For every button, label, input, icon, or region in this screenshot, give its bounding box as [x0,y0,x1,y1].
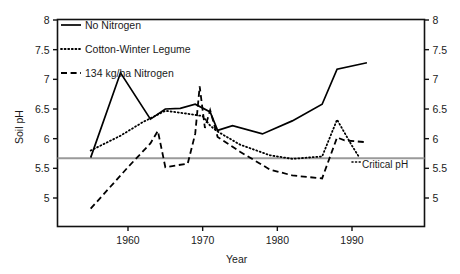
x-tick-label-1: 1970 [191,235,214,246]
y-tick-label-left-2: 7 [44,74,50,85]
legend-item-label-1: Cotton-Winter Legume [85,44,191,55]
y-tick-label-right-3: 6.5 [433,104,448,115]
y-tick-label-left-1: 7.5 [35,45,50,56]
y-tick-label-left-6: 5 [44,193,50,204]
x-axis-title: Year [226,254,247,265]
series-line-cotton-winter-legume [91,111,360,159]
y-tick-label-right-6: 5 [433,193,439,204]
y-tick-label-right-0: 8 [433,15,439,26]
legend-item-label-0: No Nitrogen [85,20,141,31]
x-tick-label-2: 1980 [266,235,289,246]
y-tick-label-right-4: 6 [433,134,439,145]
y-tick-label-right-5: 5.5 [433,163,448,174]
legend-item-label-2: 134 kg/ha Nitrogen [85,68,174,79]
chart-figure: Soil pH Year No Nitrogen Cotton-Winter L… [0,0,460,274]
y-axis-title: Soil pH [14,110,25,144]
y-tick-label-left-4: 6 [44,134,50,145]
y-tick-label-right-2: 7 [433,74,439,85]
x-tick-label-3: 1990 [340,235,363,246]
y-tick-label-right-1: 7.5 [433,45,448,56]
y-tick-label-left-5: 5.5 [35,163,50,174]
y-tick-label-left-3: 6.5 [35,104,50,115]
chart-canvas [0,0,460,274]
critical-ph-label: Critical pH [362,160,408,170]
x-tick-label-0: 1960 [116,235,139,246]
y-tick-label-left-0: 8 [44,15,50,26]
